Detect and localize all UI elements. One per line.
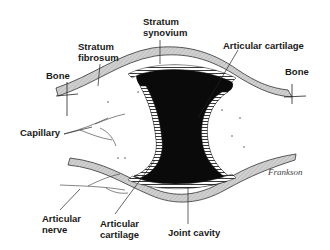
- label-stratum-synovium: Stratum synovium: [143, 16, 187, 38]
- label-articular-nerve: Articular nerve: [42, 213, 81, 235]
- label-bone-right: Bone: [285, 66, 309, 77]
- label-capillary: Capillary: [20, 127, 60, 138]
- label-articular-cartilage-bottom: Articular cartilage: [100, 218, 139, 240]
- label-joint-cavity: Joint cavity: [168, 227, 220, 238]
- label-bone-left: Bone: [46, 70, 70, 81]
- label-articular-cartilage-top: Articular cartilage: [223, 40, 304, 51]
- artist-signature: Frankson: [267, 167, 303, 177]
- label-stratum-fibrosum: Stratum fibrosum: [78, 41, 119, 63]
- capillary-vessels: [64, 114, 125, 146]
